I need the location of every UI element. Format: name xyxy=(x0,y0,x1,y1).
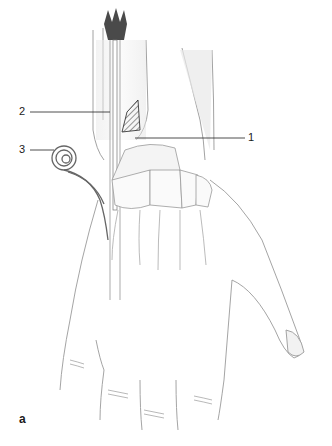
label-1: 1 xyxy=(248,132,254,143)
coiled-structure xyxy=(52,146,108,240)
panel-label: a xyxy=(19,412,26,426)
hand-anatomy-illustration xyxy=(0,0,332,446)
metacarpals xyxy=(112,210,206,270)
label-2: 2 xyxy=(19,106,25,117)
carpal-bones xyxy=(112,144,212,208)
label-3: 3 xyxy=(19,144,25,155)
hand-outline xyxy=(60,180,304,430)
